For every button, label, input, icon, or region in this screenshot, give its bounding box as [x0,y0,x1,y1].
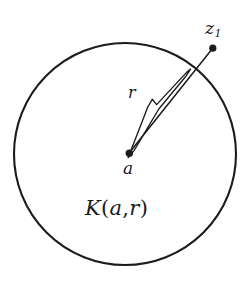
disc-name-close-paren: ) [140,196,149,220]
label-z1-subscript: 1 [214,27,221,40]
center-point-a [126,150,133,157]
circle-boundary [14,43,236,265]
disc-name-open-paren: ( [101,196,110,220]
disc-name-radius-arg: r [129,196,139,220]
exterior-point-z1 [209,45,216,52]
disc-diagram-canvas [0,0,251,283]
disc-name-head: K [85,196,101,220]
label-center-a: a [123,160,133,177]
disc-name-center-arg: a [110,196,123,220]
label-disc-name: K(a,r) [85,198,148,219]
label-radius-r: r [128,85,136,101]
label-z1: z1 [205,20,221,39]
radius-sliver [128,69,190,158]
figure-container: z1 r a K(a,r) [0,0,251,283]
label-z1-base: z [205,18,214,38]
